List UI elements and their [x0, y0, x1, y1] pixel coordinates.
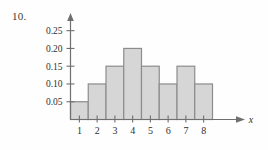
x-axis-arrow	[236, 116, 245, 122]
x-tick-label: 4	[130, 125, 135, 136]
figure-panel: 10. 0.250.200.150.100.05 12345678 x	[0, 0, 268, 150]
x-tick-label: 7	[183, 125, 188, 136]
histogram-svg: 0.250.200.150.100.05 12345678 x	[0, 0, 268, 150]
y-tick-label: 0.15	[46, 62, 63, 72]
x-tick-label: 2	[95, 125, 100, 136]
histogram-figure: 0.250.200.150.100.05 12345678 x	[0, 0, 268, 150]
histogram-bar	[106, 66, 124, 119]
y-tick-label: 0.20	[46, 44, 63, 54]
bar-series	[71, 48, 213, 119]
y-tick-label: 0.10	[46, 79, 63, 89]
x-tick-label: 6	[166, 125, 171, 136]
x-tick-label: 3	[112, 125, 117, 136]
x-tick-label: 1	[77, 125, 82, 136]
histogram-bar	[177, 66, 195, 119]
y-tick-label: 0.05	[46, 97, 63, 107]
x-tick-label: 5	[148, 125, 153, 136]
histogram-bar	[124, 48, 142, 119]
histogram-bar	[88, 84, 106, 120]
histogram-bar	[142, 66, 160, 119]
x-axis-label: x	[248, 114, 254, 125]
histogram-bar	[159, 84, 177, 120]
x-tick-label: 8	[201, 125, 206, 136]
y-axis-arrow	[67, 13, 74, 21]
y-tick-label: 0.25	[46, 26, 63, 36]
histogram-bar	[195, 84, 213, 120]
